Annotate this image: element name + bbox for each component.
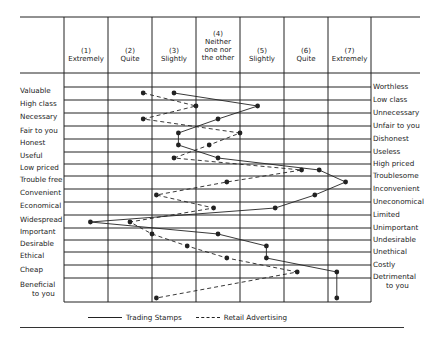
right-attribute-label: Limited <box>373 210 400 219</box>
left-attribute-label: Convenient <box>20 188 61 197</box>
right-attribute-label: Unethical <box>373 247 407 256</box>
trading-stamps-line <box>90 93 345 298</box>
right-attribute-label: Useless <box>373 147 400 156</box>
bottom-rule <box>20 327 404 328</box>
data-point <box>176 131 181 136</box>
data-point <box>334 296 339 301</box>
left-attribute-label: Valuable <box>20 86 51 95</box>
data-point <box>150 232 155 237</box>
right-attribute-label: Worthless <box>373 82 408 91</box>
data-point <box>141 91 146 96</box>
scale-header-6: (6)Quite <box>284 47 328 63</box>
left-attribute-label: Low priced <box>20 163 59 172</box>
data-point <box>216 117 221 122</box>
left-attribute-label: Trouble free <box>20 175 63 184</box>
scale-header-1: (1)Extremely <box>64 47 108 63</box>
solid-line-swatch <box>88 317 122 318</box>
data-point <box>334 270 339 275</box>
right-attribute-label: Dishonest <box>373 134 409 143</box>
left-attribute-label: Cheap <box>20 265 43 274</box>
data-point <box>299 168 304 173</box>
data-point <box>141 117 146 122</box>
right-attribute-label: High priced <box>373 159 414 168</box>
data-point <box>128 220 133 225</box>
data-point <box>255 104 260 109</box>
data-point <box>312 193 317 198</box>
left-attribute-label: Fair to you <box>20 126 58 135</box>
data-point <box>172 156 177 161</box>
right-attribute-label: Low class <box>373 95 407 104</box>
left-attribute-label: Necessary <box>20 112 57 121</box>
data-point <box>224 256 229 261</box>
right-attribute-label: Costly <box>373 260 395 269</box>
right-attribute-label: Unnecessary <box>373 108 419 117</box>
data-point <box>154 296 159 301</box>
data-point <box>154 193 159 198</box>
left-attribute-label: Honest <box>20 138 45 147</box>
data-point <box>207 143 212 148</box>
data-point <box>264 244 269 249</box>
scale-header-4: (4)Neitherone northe other <box>196 30 240 62</box>
right-attribute-label: Inconvenient <box>373 184 420 193</box>
left-attribute-label: Widespread <box>20 215 62 224</box>
data-point <box>176 143 181 148</box>
scale-header-5: (5)Slightly <box>240 47 284 63</box>
right-attribute-label: Uneconomical <box>373 197 424 206</box>
right-attribute-label: Undesirable <box>373 235 416 244</box>
right-attribute-label: Detrimentalto you <box>373 272 416 290</box>
legend-trading-stamps: Trading Stamps <box>126 313 182 322</box>
right-attribute-label: Troublesome <box>373 171 419 180</box>
dashed-line-swatch <box>196 317 220 318</box>
scale-header-3: (3)Slightly <box>152 47 196 63</box>
data-point <box>194 104 199 109</box>
data-point <box>211 206 216 211</box>
data-point <box>185 244 190 249</box>
data-point <box>264 256 269 261</box>
right-attribute-label: Unfair to you <box>373 121 420 130</box>
left-attribute-label: Economical <box>20 201 61 210</box>
data-point <box>273 206 278 211</box>
left-attribute-label: Desirable <box>20 239 54 248</box>
data-point <box>343 180 348 185</box>
legend-retail-advertising: Retail Advertising <box>224 313 287 322</box>
left-attribute-label: Beneficialto you <box>20 280 55 298</box>
left-attribute-label: High class <box>20 99 57 108</box>
left-attribute-label: Useful <box>20 151 43 160</box>
left-attribute-label: Ethical <box>20 251 44 260</box>
scale-header-2: (2)Quite <box>108 47 152 63</box>
data-point <box>216 232 221 237</box>
right-attribute-label: Unimportant <box>373 223 418 232</box>
scale-header-7: (7)Extremely <box>328 47 371 63</box>
legend: Trading Stamps Retail Advertising <box>88 313 287 322</box>
data-point <box>317 168 322 173</box>
data-point <box>295 270 300 275</box>
data-point <box>172 91 177 96</box>
left-attribute-label: Important <box>20 227 56 236</box>
data-point <box>224 180 229 185</box>
data-point <box>216 156 221 161</box>
data-point <box>238 131 243 136</box>
data-point <box>88 220 93 225</box>
